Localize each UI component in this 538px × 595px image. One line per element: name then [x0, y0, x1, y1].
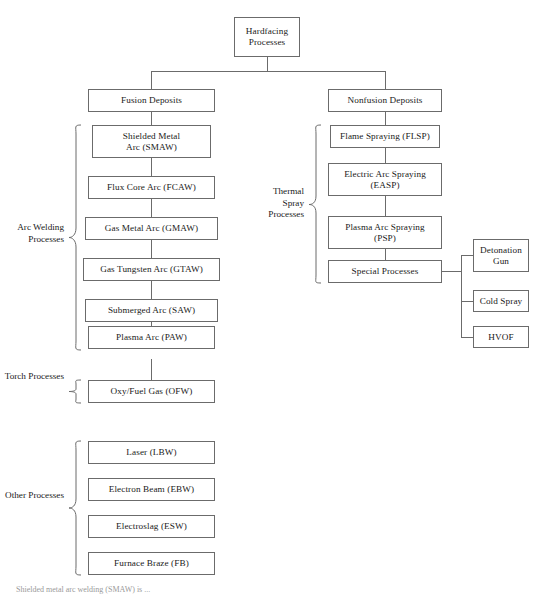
node-cold-spray: Cold Spray: [473, 290, 529, 312]
group-label-line: Thermal: [273, 186, 304, 196]
group-label-line: Torch: [5, 371, 26, 381]
brace-arc-welding: [68, 124, 82, 351]
group-label-line: Processes: [28, 490, 64, 500]
node-special-processes: Special Processes: [328, 260, 442, 283]
node-label-line: Detonation: [480, 245, 522, 256]
connector-to-cold-spray: [461, 301, 473, 302]
node-label: Flux Core Arc (FCAW): [107, 182, 196, 193]
node-label: HVOF: [488, 332, 513, 343]
connector-to-nonfusion: [385, 71, 386, 89]
connector-smaw-to-fcaw: [151, 158, 152, 176]
connector-special-bus: [461, 255, 462, 337]
node-fcaw: Flux Core Arc (FCAW): [88, 176, 215, 199]
connector-nonfusion-to-flsp: [385, 112, 386, 125]
group-label-line: Processes: [28, 234, 64, 244]
group-label-torch: Torch Processes: [4, 371, 64, 383]
group-label-line: Spray: [283, 198, 304, 208]
node-ofw: Oxy/Fuel Gas (OFW): [88, 380, 215, 403]
node-label-line: Hardfacing: [246, 26, 288, 37]
node-label: Cold Spray: [480, 296, 523, 307]
group-label-line: Processes: [28, 371, 64, 381]
node-label: Nonfusion Deposits: [347, 95, 422, 106]
brace-other: [68, 440, 82, 577]
node-label-line: Electric Arc Spraying: [344, 169, 426, 180]
node-label: Electroslag (ESW): [116, 521, 187, 532]
connector-gtaw-to-saw: [151, 281, 152, 299]
node-label: Flame Spraying (FLSP): [340, 131, 430, 142]
node-label-line: Gun: [480, 256, 522, 267]
connector-to-fusion: [151, 71, 152, 89]
connector-root-stem: [267, 57, 268, 72]
node-nonfusion-deposits: Nonfusion Deposits: [328, 89, 442, 112]
figure-caption: Shielded metal arc welding (SMAW) is ...: [16, 585, 150, 594]
group-label-thermal-spray: Thermal Spray Processes: [258, 186, 304, 221]
node-paw: Plasma Arc (PAW): [88, 326, 215, 349]
hardfacing-processes-diagram: Hardfacing Processes Fusion Deposits Shi…: [0, 0, 538, 595]
connector-fcaw-to-gmaw: [151, 199, 152, 217]
group-label-line: Arc Welding: [17, 222, 64, 232]
node-label: Special Processes: [352, 266, 419, 277]
node-detonation-gun: Detonation Gun: [473, 239, 529, 272]
node-saw: Submerged Arc (SAW): [85, 299, 218, 322]
node-label: Electron Beam (EBW): [109, 484, 195, 495]
connector-flsp-to-easp: [385, 148, 386, 163]
node-label: Furnace Braze (FB): [114, 558, 189, 569]
connector-to-ofw: [151, 359, 152, 380]
node-ebw: Electron Beam (EBW): [88, 478, 215, 501]
group-label-arc-welding: Arc Welding Processes: [4, 222, 64, 245]
node-flsp: Flame Spraying (FLSP): [330, 125, 440, 148]
brace-torch: [68, 379, 82, 404]
node-label-line: Processes: [246, 37, 288, 48]
node-label: Submerged Arc (SAW): [108, 305, 195, 316]
node-label-line: Shielded Metal: [123, 131, 180, 142]
connector-psp-to-special: [385, 249, 386, 260]
group-label-other: Other Processes: [4, 490, 64, 502]
node-label: Gas Tungsten Arc (GTAW): [100, 264, 203, 275]
connector-easp-to-psp: [385, 196, 386, 216]
node-esw: Electroslag (ESW): [88, 515, 215, 538]
connector-gmaw-to-gtaw: [151, 240, 152, 258]
node-smaw: Shielded Metal Arc (SMAW): [92, 125, 211, 158]
connector-to-hvof: [461, 337, 473, 338]
node-hvof: HVOF: [473, 326, 529, 348]
node-label: Plasma Arc (PAW): [116, 332, 187, 343]
connector-special-stub: [442, 271, 461, 272]
node-label-line: (PSP): [345, 233, 424, 244]
connector-to-detonation-gun: [461, 255, 473, 256]
node-label: Laser (LBW): [126, 447, 176, 458]
node-label-line: (EASP): [344, 180, 426, 191]
node-gtaw: Gas Tungsten Arc (GTAW): [83, 258, 220, 281]
group-label-line: Other: [5, 490, 26, 500]
node-psp: Plasma Arc Spraying (PSP): [328, 216, 442, 249]
node-lbw: Laser (LBW): [88, 441, 215, 464]
group-label-line: Processes: [268, 209, 304, 219]
node-label: Fusion Deposits: [121, 95, 182, 106]
node-label: Oxy/Fuel Gas (OFW): [111, 386, 193, 397]
connector-root-split: [151, 71, 386, 72]
node-gmaw: Gas Metal Arc (GMAW): [85, 217, 218, 240]
connector-fusion-to-smaw: [151, 112, 152, 125]
node-label: Gas Metal Arc (GMAW): [105, 223, 198, 234]
node-label-line: Arc (SMAW): [123, 142, 180, 153]
node-fb: Furnace Braze (FB): [88, 552, 215, 575]
node-easp: Electric Arc Spraying (EASP): [328, 163, 442, 196]
node-label-line: Plasma Arc Spraying: [345, 222, 424, 233]
brace-thermal-spray: [308, 124, 322, 285]
node-hardfacing-processes: Hardfacing Processes: [234, 17, 300, 57]
node-fusion-deposits: Fusion Deposits: [88, 89, 215, 112]
